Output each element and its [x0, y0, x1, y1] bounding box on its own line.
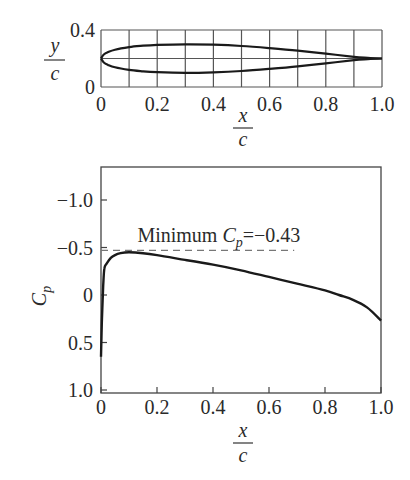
y-tick-label: 0 — [83, 284, 93, 306]
x-tick-label: 0.6 — [257, 396, 282, 418]
x-tick-label: 0.2 — [145, 396, 170, 418]
svg-text:Cp: Cp — [28, 286, 54, 306]
x-label-denominator: c — [239, 444, 248, 466]
cp-y-axis-label: Cp — [28, 286, 54, 306]
x-label-denominator: c — [239, 128, 248, 150]
x-tick-label: 0.4 — [201, 93, 226, 115]
y-label-denominator: c — [51, 62, 60, 84]
airfoil-y-tick-labels: 00.4 — [70, 19, 95, 98]
x-tick-label: 0.8 — [313, 93, 338, 115]
annotation-text: Minimum — [137, 224, 222, 246]
x-tick-label: 0 — [96, 396, 106, 418]
y-tick-label: 0 — [85, 76, 95, 98]
y-label-numerator: y — [49, 34, 60, 57]
annotation-value: =−0.43 — [243, 224, 301, 246]
cp-label-subscript: p — [39, 286, 54, 294]
x-tick-label: 1.0 — [370, 93, 395, 115]
y-tick-label: 0.5 — [68, 332, 93, 354]
cp-curve — [101, 252, 381, 356]
x-label-numerator: x — [238, 104, 248, 126]
airfoil-grid — [101, 30, 382, 87]
x-tick-label: 0.6 — [257, 93, 282, 115]
airfoil-y-axis-label: y c — [44, 34, 65, 84]
y-tick-label: −1.0 — [57, 189, 93, 211]
figure: 00.4 00.20.40.60.81.0 y c x c −1.0−0.500… — [0, 0, 410, 480]
x-tick-label: 0 — [96, 93, 106, 115]
annotation-subscript: p — [235, 235, 243, 250]
cp-y-tick-labels: −1.0−0.500.51.0 — [57, 189, 93, 401]
cp-label-main: C — [28, 292, 50, 306]
x-tick-label: 0.2 — [145, 93, 170, 115]
cp-plot: −1.0−0.500.51.0 00.20.40.60.81.0 Minimum… — [28, 167, 394, 466]
airfoil-x-axis-label: x c — [233, 104, 253, 150]
annotation-symbol: C — [222, 224, 236, 246]
x-tick-label: 0.4 — [201, 396, 226, 418]
airfoil-plot: 00.4 00.20.40.60.81.0 y c x c — [44, 19, 395, 150]
minimum-cp-annotation: Minimum Cp=−0.43 — [137, 224, 300, 250]
x-tick-label: 0.8 — [313, 396, 338, 418]
y-tick-label: 0.4 — [70, 19, 95, 41]
cp-x-tick-labels: 00.20.40.60.81.0 — [96, 396, 394, 418]
cp-x-axis-label: x c — [233, 419, 253, 466]
y-tick-label: 1.0 — [68, 379, 93, 401]
x-tick-label: 1.0 — [369, 396, 394, 418]
y-tick-label: −0.5 — [57, 237, 93, 259]
cp-plot-frame — [101, 167, 381, 393]
x-label-numerator: x — [238, 419, 248, 441]
